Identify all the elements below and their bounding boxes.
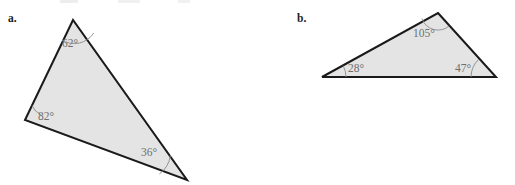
cropped-text-remnant (60, 0, 190, 3)
part-label-b: b. (297, 12, 306, 24)
angle-label-a-bottom-right: 36° (141, 146, 158, 158)
angle-label-a-left: 82° (38, 110, 55, 122)
figure-b: b. 105° 28° 47° (297, 12, 496, 77)
angle-label-a-apex: 62° (62, 37, 79, 49)
figure-a: a. 62° 82° 36° (8, 12, 187, 180)
triangle-a-shape (25, 20, 187, 180)
angle-label-b-right: 47° (455, 62, 472, 74)
triangles-diagram: a. 62° 82° 36° b. 105° 28° 47° (0, 0, 515, 185)
angle-label-b-left: 28° (348, 62, 365, 74)
geometry-figure-panel: a. 62° 82° 36° b. 105° 28° 47° (0, 0, 515, 185)
part-label-a: a. (8, 12, 17, 24)
angle-label-b-top: 105° (413, 27, 435, 39)
